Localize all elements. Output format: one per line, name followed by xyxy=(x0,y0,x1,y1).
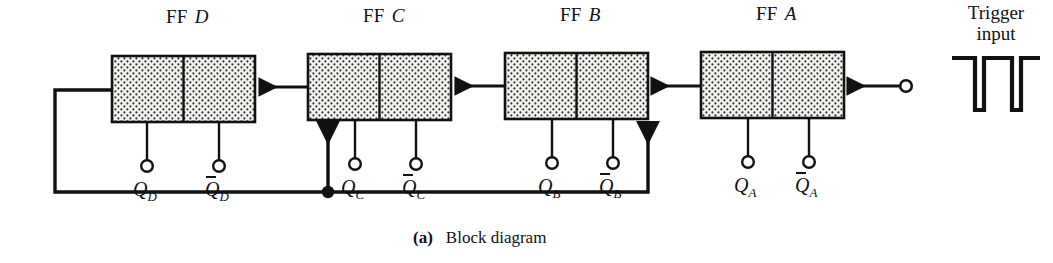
output-label-qa-not-symbol: Q xyxy=(795,174,809,197)
trigger-input-label-line2: input xyxy=(952,24,1040,45)
ff-title-b: FFB xyxy=(560,4,601,26)
ff-title-a: FFA xyxy=(756,3,797,25)
ff-title-d-letter: D xyxy=(195,6,209,27)
ff-title-b-letter: B xyxy=(589,4,601,25)
output-stub-qb-not xyxy=(607,119,619,169)
figure-caption-tag: (a) xyxy=(413,228,433,247)
ff-box-b xyxy=(505,53,648,119)
ff-title-a-letter: A xyxy=(785,3,797,24)
output-stub-qa-not xyxy=(803,118,815,168)
figure-caption-text: Block diagram xyxy=(446,228,547,247)
ff-title-d: FFD xyxy=(166,6,209,28)
output-label-qd-not-symbol: Q xyxy=(205,178,219,201)
output-label-qa: QA xyxy=(734,174,756,201)
output-label-qb-symbol: Q xyxy=(538,175,552,197)
figure-caption: (a)Block diagram xyxy=(413,228,546,248)
ff-title-a-word: FF xyxy=(756,3,778,24)
ff-title-d-word: FF xyxy=(166,6,188,27)
output-label-qb-not-symbol: Q xyxy=(599,175,613,198)
ff-box-a xyxy=(701,52,844,118)
output-label-qd-not: QD xyxy=(205,178,229,205)
output-label-qb-subscript: B xyxy=(552,186,560,201)
ff-title-c-word: FF xyxy=(363,5,385,26)
feedback-junction-dot xyxy=(322,186,334,198)
output-label-qb: QB xyxy=(538,175,560,202)
output-label-qd: QD xyxy=(133,178,157,205)
output-label-qd-subscript: D xyxy=(147,189,156,204)
output-label-qc-not: QC xyxy=(402,176,425,203)
ff-title-c: FFC xyxy=(363,5,405,27)
ff-title-b-word: FF xyxy=(560,4,582,25)
trigger-input-label-line1: Trigger xyxy=(952,3,1040,24)
output-label-qc-symbol: Q xyxy=(341,176,355,198)
output-label-qc-subscript: C xyxy=(355,187,364,202)
output-stub-qd xyxy=(141,122,153,172)
trigger-input-label: Trigger input xyxy=(952,3,1040,44)
output-label-qd-not-subscript: D xyxy=(219,189,228,204)
output-stub-qc-not xyxy=(410,120,422,170)
ff-box-d xyxy=(112,56,255,122)
output-label-qd-symbol: Q xyxy=(133,178,147,200)
output-label-qa-not: QA xyxy=(795,174,817,201)
circuit-schematic xyxy=(0,0,1053,263)
output-stub-qb xyxy=(546,119,558,169)
output-label-qc-not-subscript: C xyxy=(416,187,425,202)
output-label-qa-not-subscript: A xyxy=(809,185,817,200)
ff-box-c xyxy=(308,54,451,120)
block-diagram-figure: FFD FFC FFB FFA QD QD QC QC QB QB QA QA … xyxy=(0,0,1053,263)
output-label-qa-symbol: Q xyxy=(734,174,748,196)
output-stub-qc xyxy=(349,120,361,170)
ff-title-c-letter: C xyxy=(392,5,405,26)
output-label-qc-not-symbol: Q xyxy=(402,176,416,199)
output-label-qb-not-subscript: B xyxy=(613,186,621,201)
output-label-qb-not: QB xyxy=(599,175,621,202)
trigger-waveform xyxy=(952,58,1040,110)
output-stub-qd-not xyxy=(213,122,225,172)
output-stub-qa xyxy=(742,118,754,168)
output-label-qc: QC xyxy=(341,176,364,203)
trigger-terminal-node xyxy=(900,80,912,92)
output-label-qa-subscript: A xyxy=(748,185,756,200)
